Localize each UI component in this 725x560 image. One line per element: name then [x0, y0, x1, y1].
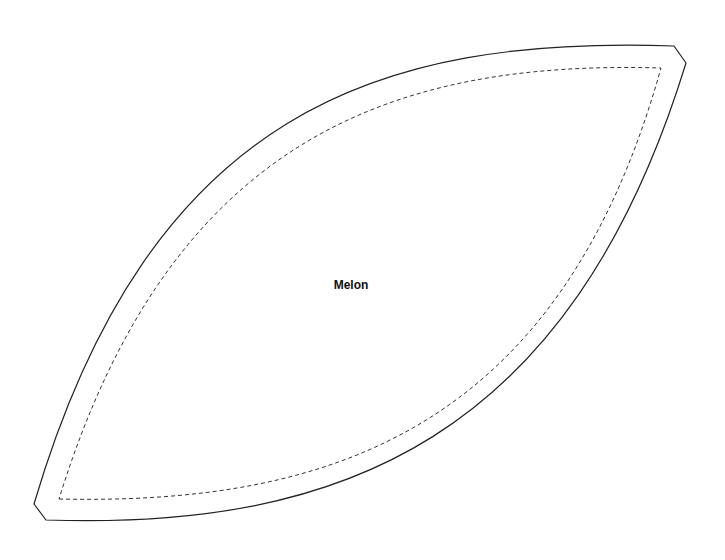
piece-label: Melon — [334, 278, 369, 292]
pattern-diagram: Melon — [0, 0, 725, 560]
